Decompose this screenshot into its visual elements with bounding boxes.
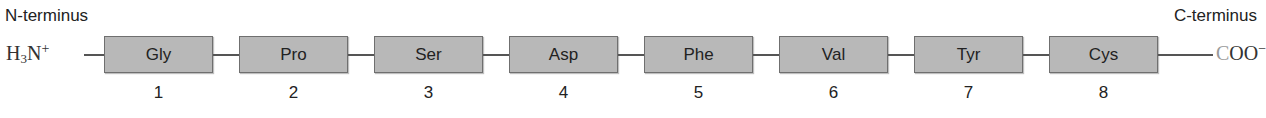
peptide-bond <box>618 54 644 56</box>
peptide-bond <box>1023 54 1049 56</box>
residue-box: Asp <box>509 36 618 73</box>
residue-position: 4 <box>509 83 618 103</box>
residue-position: 3 <box>374 83 483 103</box>
carboxyl-oo: OO <box>1229 42 1258 64</box>
residue-position: 5 <box>644 83 753 103</box>
peptide-bond <box>888 54 914 56</box>
c-terminus-label: C-terminus <box>1174 6 1257 26</box>
residue-box: Tyr <box>914 36 1023 73</box>
residue-position: 7 <box>914 83 1023 103</box>
residue-position: 6 <box>779 83 888 103</box>
peptide-bond <box>348 54 374 56</box>
residue-box: Cys <box>1049 36 1158 73</box>
peptide-bond <box>483 54 509 56</box>
residue-box: Gly <box>104 36 213 73</box>
residue-position: 1 <box>104 83 213 103</box>
residue-box: Ser <box>374 36 483 73</box>
amino-n: N <box>27 42 41 64</box>
carboxyl-charge: − <box>1258 41 1266 56</box>
carboxyl-c: C <box>1216 42 1229 64</box>
peptide-bond <box>213 54 239 56</box>
peptide-bond <box>84 54 104 56</box>
amino-charge: + <box>41 41 49 56</box>
n-terminus-label: N-terminus <box>5 6 88 26</box>
residue-box: Pro <box>239 36 348 73</box>
amino-h: H <box>6 42 20 64</box>
residue-box: Phe <box>644 36 753 73</box>
residue-box: Val <box>779 36 888 73</box>
carboxyl-group: COO− <box>1216 41 1266 65</box>
residue-position: 8 <box>1049 83 1158 103</box>
peptide-bond <box>753 54 779 56</box>
amino-group: H3N+ <box>6 41 49 67</box>
residue-position: 2 <box>239 83 348 103</box>
peptide-bond <box>1158 54 1213 56</box>
